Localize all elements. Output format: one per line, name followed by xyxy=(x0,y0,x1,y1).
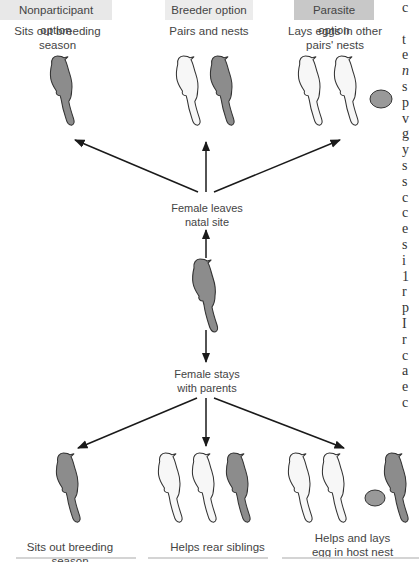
arrow-to-bottom-helps-lays xyxy=(214,398,344,448)
side-char: v xyxy=(402,111,419,127)
nonparticipant-bird-icon xyxy=(50,56,74,125)
center-female-bird-icon xyxy=(193,259,218,332)
side-char: c xyxy=(402,395,419,411)
side-char: c xyxy=(402,348,419,364)
side-char: s xyxy=(402,79,419,95)
arrow-to-nonparticipant xyxy=(75,140,198,192)
bottom-divider xyxy=(148,557,268,559)
side-char: c xyxy=(402,205,419,221)
side-char: c xyxy=(402,190,419,206)
side-char: p xyxy=(402,300,419,316)
parasite-birds-icon xyxy=(298,56,358,125)
bottom-egg-icon xyxy=(365,490,385,506)
clipped-paragraph-text: c t e n s p v g y s s c c e s i 1 r p I … xyxy=(402,0,419,411)
side-char: g xyxy=(402,126,419,142)
side-char: i xyxy=(402,253,419,269)
bottom-sits-out-bird-icon xyxy=(56,453,80,522)
arrow-to-bottom-sits-out xyxy=(78,398,197,448)
side-char: e xyxy=(402,47,419,63)
side-char: r xyxy=(402,332,419,348)
side-char: r xyxy=(402,284,419,300)
side-char: s xyxy=(402,237,419,253)
side-char: c xyxy=(402,0,419,16)
bird-diagram xyxy=(0,0,419,562)
side-char: a xyxy=(402,363,419,379)
bottom-divider xyxy=(16,557,136,559)
side-char: e xyxy=(402,379,419,395)
parasite-egg-icon xyxy=(370,90,392,108)
breeder-pair-icon xyxy=(176,56,234,125)
side-char: I xyxy=(402,316,419,332)
side-char: s xyxy=(402,158,419,174)
side-char: t xyxy=(402,32,419,48)
bottom-divider xyxy=(282,557,419,559)
side-char: e xyxy=(402,221,419,237)
side-char: s xyxy=(402,174,419,190)
side-char xyxy=(402,16,419,32)
side-char: 1 xyxy=(402,269,419,285)
bottom-host-nest-group-icon xyxy=(288,453,408,522)
bottom-helpers-group-icon xyxy=(158,453,250,522)
arrow-to-parasite xyxy=(214,140,340,192)
side-char: p xyxy=(402,95,419,111)
side-char: y xyxy=(402,142,419,158)
side-char: n xyxy=(402,63,419,79)
